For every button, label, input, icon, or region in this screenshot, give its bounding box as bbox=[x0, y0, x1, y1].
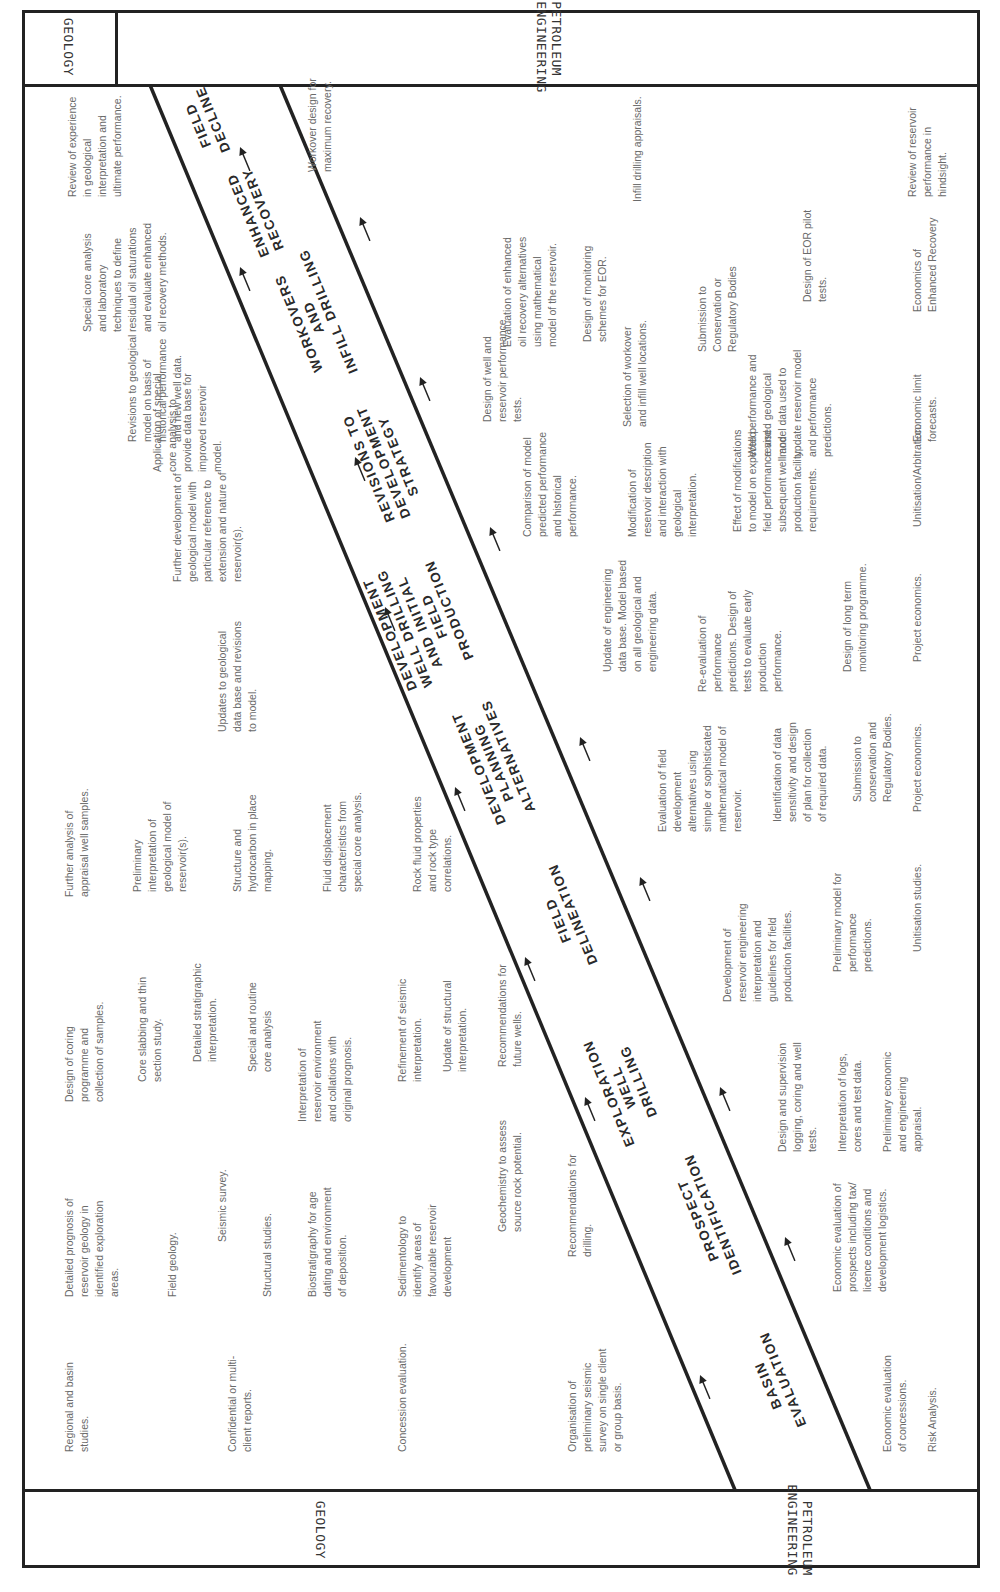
engineering-note: Evaluation of enhanced oil recovery alte… bbox=[500, 237, 560, 347]
geology-note: Refinement of seismic interpretation. bbox=[395, 979, 425, 1082]
geology-note: Recommendations for drilling. bbox=[565, 1154, 595, 1257]
engineering-note: Submission to conservation and Regulator… bbox=[850, 713, 895, 802]
engineering-note: Update of engineering data base. Model b… bbox=[600, 560, 660, 672]
engineering-note: Modification of reservoir description an… bbox=[625, 442, 700, 537]
geology-note: Seismic survey. bbox=[215, 1169, 230, 1242]
engineering-note: Re-evaluation of performance predictions… bbox=[695, 590, 785, 692]
geology-note: Design of coring programme and collectio… bbox=[62, 1002, 107, 1102]
geology-note: Structural studies. bbox=[260, 1213, 275, 1297]
geology-note: Core slabbing and thin section study. bbox=[135, 977, 165, 1082]
geology-note: Biostratigraphy for age dating and envir… bbox=[305, 1187, 350, 1297]
geology-note: Further development of geological model … bbox=[170, 472, 245, 582]
engineering-note: Design of EOR pilot tests. bbox=[800, 210, 830, 302]
geology-note: Fluid displacement characteristics from … bbox=[320, 792, 365, 892]
geology-note: Geochemistry to assess source rock poten… bbox=[495, 1120, 525, 1232]
engineering-note: Interpretation of logs, cores and test d… bbox=[835, 1053, 865, 1152]
geology-note: Organisation of preliminary seismic surv… bbox=[565, 1349, 625, 1452]
geology-note: Review of experience in geological inter… bbox=[65, 95, 125, 197]
engineering-note: Development of reservoir engineering int… bbox=[720, 903, 795, 1002]
geology-note: Revisions to geological model on basis o… bbox=[125, 335, 185, 442]
geology-note: Sedimentology to identify areas of favou… bbox=[395, 1204, 455, 1297]
engineering-note: Economic evaluation of prospects includi… bbox=[830, 1182, 890, 1292]
geology-note: Preliminary interpretation of geological… bbox=[130, 802, 190, 892]
engineering-note: Design and supervision logging, coring a… bbox=[775, 1042, 820, 1152]
geology-note: Detailed prognosis of reservoir geology … bbox=[62, 1198, 122, 1297]
engineering-note: Unitisation studies. bbox=[910, 864, 925, 952]
engineering-note: Risk Analysis. bbox=[925, 1387, 940, 1452]
field-lifecycle-diagram: PETROLEUM ENGINEERING GEOLOGY GEOLOGY PE… bbox=[0, 0, 1000, 1592]
geology-note: Confidential or multi- client reports. bbox=[225, 1356, 255, 1452]
engineering-note: Identification of data sensitivity and d… bbox=[770, 722, 830, 822]
engineering-note: Economic limit forecasts. bbox=[910, 374, 940, 442]
geology-note: Interpretation of reservoir environment … bbox=[295, 1020, 355, 1122]
engineering-note: Design of monitoring schemes for EOR. bbox=[580, 246, 610, 342]
geology-note: Further analysis of appraisal well sampl… bbox=[62, 788, 92, 897]
geology-note: Updates to geological data base and revi… bbox=[215, 621, 260, 732]
geology-note: Detailed stratigraphic interpretation. bbox=[190, 963, 220, 1062]
engineering-note: Evaluation of field development alternat… bbox=[655, 725, 745, 832]
geology-note: Regional and basin studies. bbox=[62, 1362, 92, 1452]
geology-note: Concession evaluation. bbox=[395, 1343, 410, 1452]
geology-note: Update of structural interpretation. bbox=[440, 980, 470, 1072]
engineering-note: Design of long term monitoring programme… bbox=[840, 563, 870, 672]
geology-note: Rock fluid properties and rock type corr… bbox=[410, 796, 455, 892]
engineering-note: Workover design for maximum recovery. bbox=[305, 78, 335, 172]
engineering-note: Submission to Conservation or Regulatory… bbox=[695, 266, 740, 352]
engineering-note: Infill drilling appraisals. bbox=[630, 96, 645, 202]
engineering-note: Project economics. bbox=[910, 573, 925, 662]
engineering-note: Economic evaluation of concessions. bbox=[880, 1355, 910, 1452]
engineering-note: Review of reservoir performance in hinds… bbox=[905, 107, 950, 197]
engineering-note: Comparison of model predicted performanc… bbox=[520, 432, 580, 537]
engineering-note: Project economics. bbox=[910, 723, 925, 812]
engineering-note: Selection of workover and infill well lo… bbox=[620, 320, 650, 427]
engineering-note: Preliminary economic and engineering app… bbox=[880, 1052, 925, 1152]
engineering-note: Well performance and revised geological … bbox=[745, 350, 835, 457]
geology-note: Structure and hydrocarbon in place mappi… bbox=[230, 795, 275, 892]
geology-note: Recommendations for future wells. bbox=[495, 964, 525, 1067]
geology-note: Field geology. bbox=[165, 1232, 180, 1297]
geology-note: Special and routine core analysis bbox=[245, 982, 275, 1072]
engineering-note: Economics of Enhanced Recovery bbox=[910, 217, 940, 312]
geology-note: Special core analysis and laboratory tec… bbox=[80, 223, 170, 332]
engineering-note: Preliminary model for performance predic… bbox=[830, 873, 875, 972]
